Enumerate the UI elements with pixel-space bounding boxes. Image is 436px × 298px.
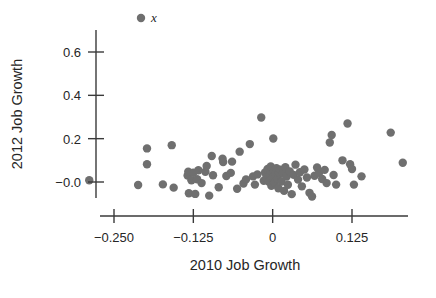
data-point bbox=[215, 183, 223, 191]
data-point bbox=[348, 165, 356, 173]
data-point bbox=[85, 176, 93, 184]
y-tick-label: 0.2 bbox=[63, 132, 81, 147]
axis-labels-layer: −0.250−0.12500.1250.60.40.2−0.02010 Job … bbox=[9, 45, 368, 273]
data-point bbox=[298, 182, 306, 190]
data-point bbox=[209, 171, 217, 179]
data-point bbox=[269, 134, 277, 142]
data-point bbox=[399, 159, 407, 167]
x-axis-title: 2010 Job Growth bbox=[190, 257, 300, 273]
data-point bbox=[228, 157, 236, 165]
data-point bbox=[257, 113, 265, 121]
data-point bbox=[322, 179, 330, 187]
data-point bbox=[253, 170, 261, 178]
data-point bbox=[300, 165, 308, 173]
data-point bbox=[191, 190, 199, 198]
y-tick-label: 0.6 bbox=[63, 45, 81, 60]
legend-marker-icon bbox=[137, 14, 145, 22]
data-point bbox=[168, 141, 176, 149]
data-point bbox=[169, 183, 177, 191]
data-point bbox=[387, 128, 395, 136]
data-point bbox=[327, 131, 335, 139]
data-point bbox=[208, 152, 216, 160]
y-tick-label: 0.4 bbox=[63, 88, 81, 103]
data-point bbox=[284, 181, 292, 189]
data-point bbox=[303, 173, 311, 181]
x-tick-label: 0.125 bbox=[336, 230, 369, 245]
x-tick-label: −0.250 bbox=[94, 230, 134, 245]
data-point bbox=[202, 162, 210, 170]
scatter-plot-figure: −0.250−0.12500.1250.60.40.2−0.02010 Job … bbox=[0, 0, 436, 298]
data-points-layer bbox=[85, 113, 407, 200]
x-tick-label: −0.125 bbox=[173, 230, 213, 245]
data-point bbox=[308, 192, 316, 200]
y-axis-title: 2012 Job Growth bbox=[9, 59, 25, 169]
data-point bbox=[251, 180, 259, 188]
data-point bbox=[143, 144, 151, 152]
data-point bbox=[159, 180, 167, 188]
data-point bbox=[246, 140, 254, 148]
data-point bbox=[321, 166, 329, 174]
x-tick-label: 0 bbox=[269, 230, 276, 245]
data-point bbox=[332, 180, 340, 188]
data-point bbox=[235, 147, 243, 155]
data-point bbox=[227, 169, 235, 177]
data-point bbox=[343, 119, 351, 127]
data-point bbox=[350, 180, 358, 188]
axes-layer bbox=[88, 30, 408, 223]
data-point bbox=[338, 156, 346, 164]
legend: x bbox=[137, 10, 157, 25]
data-point bbox=[357, 172, 365, 180]
data-point bbox=[134, 181, 142, 189]
data-point bbox=[197, 179, 205, 187]
data-point bbox=[291, 160, 299, 168]
data-point bbox=[205, 191, 213, 199]
data-point bbox=[326, 138, 334, 146]
data-point bbox=[194, 166, 202, 174]
plot-canvas: −0.250−0.12500.1250.60.40.2−0.02010 Job … bbox=[0, 0, 436, 298]
data-point bbox=[219, 158, 227, 166]
legend-label: x bbox=[150, 10, 157, 25]
data-point bbox=[143, 160, 151, 168]
data-point bbox=[288, 190, 296, 198]
data-point bbox=[329, 171, 337, 179]
y-tick-label: −0.0 bbox=[55, 175, 81, 190]
